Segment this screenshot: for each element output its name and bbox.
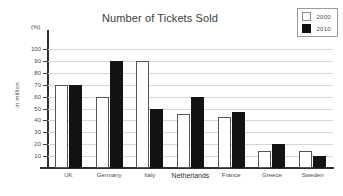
x-axis-category-label: Sweden <box>302 172 324 178</box>
bar-2000-germany[interactable] <box>96 97 109 168</box>
bar-2010-italy[interactable] <box>150 109 163 169</box>
bar-2000-greece[interactable] <box>258 151 271 168</box>
chart-legend: 2000 2010 <box>297 8 338 37</box>
bar-2000-sweden[interactable] <box>299 151 312 168</box>
x-axis-category-label: Germany <box>97 172 122 178</box>
bar-2000-uk[interactable] <box>55 85 68 168</box>
y-axis-title: in million <box>14 65 20 125</box>
chart-title: Number of Tickets Sold <box>60 12 260 24</box>
legend-item-2010[interactable]: 2010 <box>302 24 331 33</box>
x-axis-category-label: Netherlands <box>172 172 210 179</box>
bar-2010-netherlands[interactable] <box>191 97 204 168</box>
bar-group: Sweden <box>292 49 333 168</box>
bar-group: Greece <box>252 49 293 168</box>
y-axis-tick-label: 50 <box>34 106 41 112</box>
y-axis-tick-label: 20 <box>34 141 41 147</box>
y-axis-tick-label: 90 <box>34 58 41 64</box>
bar-2010-sweden[interactable] <box>313 156 326 168</box>
x-axis-category-label: Italy <box>144 172 155 178</box>
bar-2000-italy[interactable] <box>136 61 149 168</box>
x-axis-category-label: Greece <box>262 172 282 178</box>
y-axis-tick-label: 60 <box>34 94 41 100</box>
legend-label-2000: 2000 <box>316 14 331 20</box>
bar-2010-germany[interactable] <box>110 61 123 168</box>
bar-group: Italy <box>129 49 170 168</box>
y-axis-tick-label: 70 <box>34 82 41 88</box>
legend-item-2000[interactable]: 2000 <box>302 12 331 21</box>
bar-2010-uk[interactable] <box>69 85 82 168</box>
legend-label-2010: 2010 <box>316 26 331 32</box>
y-axis-tick-label: 10 <box>34 153 41 159</box>
bar-group: Netherlands <box>170 49 211 168</box>
y-axis-tick-label: 100 <box>31 46 41 52</box>
bar-chart: Number of Tickets Sold 2000 2010 (%) in … <box>0 0 343 196</box>
plot-area: 102030405060708090100 UKGermanyItalyNeth… <box>48 49 333 168</box>
y-axis-tick-label: 40 <box>34 117 41 123</box>
bar-2000-france[interactable] <box>218 117 231 168</box>
y-axis-tick-label: 30 <box>34 129 41 135</box>
y-axis-tick-label: 80 <box>34 70 41 76</box>
x-axis-category-label: UK <box>64 172 72 178</box>
y-axis-unit-note: (%) <box>31 24 40 30</box>
bar-2010-greece[interactable] <box>272 144 285 168</box>
bar-2000-netherlands[interactable] <box>177 114 190 168</box>
bar-2010-france[interactable] <box>232 112 245 168</box>
x-axis-category-label: France <box>222 172 241 178</box>
legend-swatch-2010 <box>302 24 311 33</box>
legend-swatch-2000 <box>302 12 311 21</box>
bar-group: UK <box>48 49 89 168</box>
bar-group: France <box>211 49 252 168</box>
bar-group: Germany <box>89 49 130 168</box>
